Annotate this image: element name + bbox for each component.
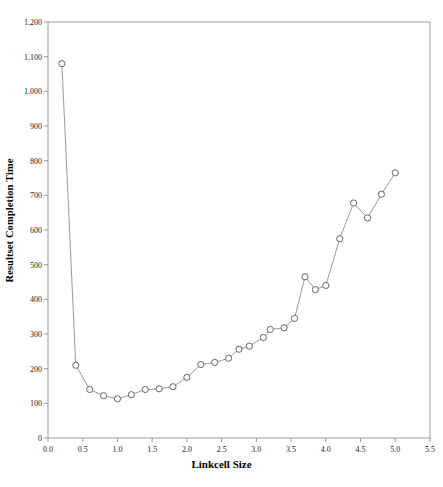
data-point-marker <box>156 386 162 392</box>
y-tick-label: 1,000 <box>8 87 42 96</box>
axes <box>48 22 430 438</box>
y-tick-label: 1,200 <box>8 18 42 27</box>
data-point-marker <box>364 215 370 221</box>
tick-marks <box>44 22 430 442</box>
x-tick-label: 2.0 <box>182 445 192 454</box>
y-tick-label: 100 <box>8 399 42 408</box>
y-tick-label: 500 <box>8 260 42 269</box>
plot-canvas <box>0 0 443 487</box>
data-point-marker <box>246 343 252 349</box>
data-point-marker <box>73 362 79 368</box>
y-tick-label: 600 <box>8 226 42 235</box>
data-point-marker <box>260 334 266 340</box>
y-tick-label: 300 <box>8 330 42 339</box>
data-point-marker <box>392 170 398 176</box>
x-tick-label: 0.5 <box>78 445 88 454</box>
x-axis-title: Linkcell Size <box>0 458 443 470</box>
x-tick-label: 5.0 <box>390 445 400 454</box>
data-point-marker <box>128 392 134 398</box>
x-tick-label: 3.0 <box>251 445 261 454</box>
data-point-marker <box>351 200 357 206</box>
series-line <box>62 64 395 399</box>
data-point-marker <box>281 325 287 331</box>
chart-figure: Resultset Completion Time 01002003004005… <box>0 0 443 487</box>
data-series <box>59 61 399 402</box>
data-point-marker <box>323 282 329 288</box>
data-point-marker <box>378 191 384 197</box>
x-tick-label: 3.5 <box>286 445 296 454</box>
data-point-marker <box>170 384 176 390</box>
x-tick-label: 2.5 <box>217 445 227 454</box>
x-tick-label: 5.5 <box>425 445 435 454</box>
y-tick-label: 1,100 <box>8 52 42 61</box>
x-tick-label: 1.5 <box>147 445 157 454</box>
data-point-marker <box>87 386 93 392</box>
y-tick-label: 200 <box>8 364 42 373</box>
data-point-marker <box>59 61 65 67</box>
plot-frame <box>48 22 430 438</box>
data-point-marker <box>302 274 308 280</box>
data-point-marker <box>267 326 273 332</box>
x-tick-label: 4.0 <box>321 445 331 454</box>
data-point-marker <box>291 315 297 321</box>
data-point-marker <box>114 396 120 402</box>
y-tick-label: 700 <box>8 191 42 200</box>
data-point-marker <box>142 386 148 392</box>
data-point-marker <box>337 236 343 242</box>
x-tick-label: 1.0 <box>112 445 122 454</box>
data-point-marker <box>225 355 231 361</box>
y-tick-label: 900 <box>8 122 42 131</box>
y-tick-label: 400 <box>8 295 42 304</box>
x-axis-title-text: Linkcell Size <box>191 458 251 470</box>
x-tick-label: 0.0 <box>43 445 53 454</box>
data-point-marker <box>212 359 218 365</box>
data-point-marker <box>184 374 190 380</box>
data-point-marker <box>312 287 318 293</box>
x-tick-label: 4.5 <box>356 445 366 454</box>
data-point-marker <box>198 361 204 367</box>
y-tick-label: 800 <box>8 156 42 165</box>
data-point-marker <box>100 393 106 399</box>
y-tick-label: 0 <box>8 434 42 443</box>
data-point-marker <box>236 346 242 352</box>
